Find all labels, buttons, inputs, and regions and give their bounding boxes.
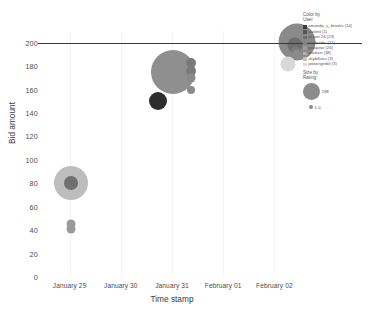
color-swatch-icon bbox=[303, 41, 307, 45]
color-legend-item[interactable]: oscott 24 (23) bbox=[303, 35, 373, 40]
color-swatch-icon bbox=[303, 52, 307, 56]
y-tick-label: 200 bbox=[25, 38, 38, 47]
color-legend-item[interactable]: starken (38) bbox=[303, 51, 373, 56]
x-axis-title: Time stamp bbox=[44, 294, 300, 304]
y-tick-label: 20 bbox=[30, 249, 38, 258]
color-legend-label: eagleizbc (11) bbox=[308, 41, 335, 46]
size-legend-item[interactable]: 1.0 bbox=[309, 105, 321, 110]
size-legend-items: 2381.0 bbox=[303, 83, 373, 117]
data-point bbox=[149, 92, 167, 110]
color-swatch-icon bbox=[303, 63, 307, 67]
size-bubble-icon bbox=[303, 83, 320, 100]
color-legend-label: auilent (1) bbox=[308, 30, 327, 35]
y-tick-label: 0 bbox=[34, 273, 38, 282]
color-legend-label: oscott 24 (23) bbox=[308, 35, 334, 40]
size-legend-label: 1.0 bbox=[315, 105, 321, 110]
y-tick-label: 160 bbox=[25, 85, 38, 94]
color-legend-items: amanda_s_brooks (14)auilent (1)oscott 24… bbox=[303, 24, 373, 67]
y-tick-label: 60 bbox=[30, 202, 38, 211]
y-axis-ticks: 020406080100120140160180200 bbox=[0, 31, 38, 277]
x-tick-label: February 01 bbox=[205, 282, 242, 289]
color-swatch-icon bbox=[303, 36, 307, 40]
gridline bbox=[223, 31, 224, 277]
color-legend-item[interactable]: golapow (26) bbox=[303, 46, 373, 51]
size-legend-title-line2: Rating bbox=[303, 75, 373, 80]
x-tick-label: February 02 bbox=[256, 282, 293, 289]
color-legend-label: starken (38) bbox=[308, 51, 331, 56]
size-legend: Size by Rating 2381.0 bbox=[303, 70, 373, 117]
y-tick-label: 140 bbox=[25, 109, 38, 118]
color-legend: Color by User amanda_s_brooks (14)auilen… bbox=[303, 12, 373, 67]
x-tick-label: January 30 bbox=[104, 282, 138, 289]
y-tick-label: 100 bbox=[25, 155, 38, 164]
x-tick-label: January 31 bbox=[155, 282, 189, 289]
y-tick-label: 180 bbox=[25, 62, 38, 71]
x-tick-label: January 29 bbox=[53, 282, 87, 289]
color-legend-label: skybillues (3) bbox=[308, 57, 333, 62]
color-legend-label: powergerbil (3) bbox=[308, 62, 337, 67]
data-point bbox=[187, 86, 195, 94]
data-point bbox=[292, 50, 300, 58]
color-swatch-icon bbox=[303, 57, 307, 61]
size-bubble-icon bbox=[309, 105, 313, 109]
data-point bbox=[66, 224, 75, 233]
plot-area bbox=[44, 31, 300, 277]
gridline bbox=[274, 31, 275, 277]
color-swatch-icon bbox=[303, 46, 307, 50]
color-legend-item[interactable]: skybillues (3) bbox=[303, 57, 373, 62]
y-tick-label: 80 bbox=[30, 179, 38, 188]
color-swatch-icon bbox=[303, 25, 307, 29]
bubble-chart: 020406080100120140160180200 Bid amount J… bbox=[0, 0, 373, 314]
gridline bbox=[121, 31, 122, 277]
y-axis-title: Bid amount bbox=[7, 83, 17, 163]
size-legend-item[interactable]: 238 bbox=[303, 83, 329, 100]
data-point bbox=[280, 56, 295, 71]
color-legend-item[interactable]: eagleizbc (11) bbox=[303, 40, 373, 45]
y-tick-label: 40 bbox=[30, 226, 38, 235]
color-legend-title-line2: User bbox=[303, 17, 373, 22]
data-point bbox=[187, 73, 196, 82]
color-legend-item[interactable]: amanda_s_brooks (14) bbox=[303, 24, 373, 29]
color-legend-label: golapow (26) bbox=[308, 46, 333, 51]
color-legend-item[interactable]: auilent (1) bbox=[303, 30, 373, 35]
gridline bbox=[70, 31, 71, 277]
y-tick-label: 120 bbox=[25, 132, 38, 141]
data-point bbox=[64, 176, 78, 190]
color-legend-label: amanda_s_brooks (14) bbox=[308, 24, 352, 29]
size-legend-label: 238 bbox=[322, 89, 329, 94]
color-legend-item[interactable]: powergerbil (3) bbox=[303, 62, 373, 67]
color-swatch-icon bbox=[303, 30, 307, 34]
